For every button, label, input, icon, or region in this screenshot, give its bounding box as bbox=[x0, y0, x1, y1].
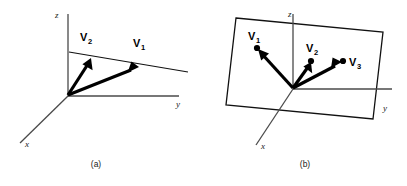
panel-b-x-axis bbox=[256, 89, 293, 145]
panel-b-vector-v3-tip-dot bbox=[340, 58, 346, 64]
panel-a-caption: (a) bbox=[91, 159, 102, 169]
panel-a-v1-label-subscript: 1 bbox=[141, 43, 145, 52]
panel-b-v3-label-subscript: 3 bbox=[357, 62, 361, 71]
panel-b-vector-v1-shaft bbox=[262, 54, 293, 88]
panel-b-v2-label-letter: V bbox=[306, 42, 314, 54]
panel-a-x-axis bbox=[20, 96, 68, 143]
panel-b-x-axis-label: x bbox=[260, 141, 265, 151]
panel-b-vector-v1-label: V 1 bbox=[248, 30, 260, 45]
panel-b-vector-v1 bbox=[254, 45, 293, 88]
panel-b-vector-v3-label: V 3 bbox=[349, 56, 361, 71]
panel-b-y-axis-label: y bbox=[382, 103, 387, 113]
panel-b-vector-v2-tip-dot bbox=[308, 58, 314, 64]
panel-b-vector-v3-arrowhead bbox=[331, 57, 342, 68]
panel-a-vector-v1-label: V 1 bbox=[133, 37, 145, 52]
figure-container: z y x V 2 V 1 (a) bbox=[0, 0, 407, 186]
panel-b-v2-label-subscript: 2 bbox=[314, 48, 318, 57]
panel-b-v3-label-letter: V bbox=[349, 56, 357, 68]
panel-a-v2-label-letter: V bbox=[80, 31, 88, 43]
panel-b-z-axis-label: z bbox=[287, 9, 292, 19]
panel-b-vector-v2-label: V 2 bbox=[306, 42, 318, 57]
panel-a-y-axis-label: y bbox=[175, 99, 180, 109]
panel-a-v2-label-subscript: 2 bbox=[88, 37, 92, 46]
vector-plane-figure: z y x V 2 V 1 (a) bbox=[0, 0, 407, 186]
panel-b-group: z y x V 1 V 2 V 3 (b) bbox=[226, 9, 392, 169]
panel-a-vector-v2-label: V 2 bbox=[80, 31, 92, 46]
panel-a-v1-label-letter: V bbox=[133, 37, 141, 49]
panel-a-x-axis-label: x bbox=[24, 139, 29, 149]
panel-b-caption: (b) bbox=[300, 159, 311, 169]
panel-b-v1-label-subscript: 1 bbox=[256, 36, 260, 45]
panel-b-v1-label-letter: V bbox=[248, 30, 256, 42]
panel-b-vector-v3 bbox=[293, 57, 346, 88]
panel-b-vector-v1-tip-dot bbox=[254, 45, 260, 51]
panel-a-group: z y x V 2 V 1 (a) bbox=[20, 10, 188, 169]
panel-a-z-axis-label: z bbox=[54, 10, 59, 20]
